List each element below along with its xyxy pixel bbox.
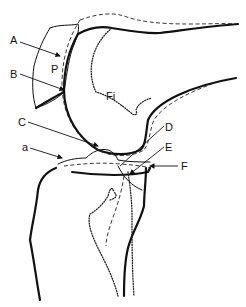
femur-anterior-shaft — [78, 24, 238, 34]
patella-posterior-edge — [36, 92, 64, 108]
leader-a — [30, 148, 62, 158]
leader-D — [120, 126, 164, 166]
fibula-dashed-inner — [106, 176, 124, 246]
fibula-dotted — [89, 189, 118, 296]
femur-condyle-outline — [64, 34, 236, 154]
knee-diagram: A B P Fi C a D E F — [0, 0, 246, 307]
meniscus-dashed — [64, 163, 150, 168]
label-D: D — [165, 121, 173, 133]
leader-B — [20, 74, 64, 90]
femur-dashed-outline — [80, 14, 236, 24]
label-a: a — [22, 141, 29, 153]
tibia-anterior — [30, 168, 56, 300]
label-C: C — [18, 116, 26, 128]
leader-A — [20, 42, 60, 56]
leader-C — [28, 122, 98, 146]
label-Fi: Fi — [106, 90, 115, 102]
femur-dashed-condyle — [62, 20, 212, 156]
femur-inner-dotted — [91, 28, 152, 115]
label-F: F — [181, 160, 188, 172]
tibial-plateau — [72, 168, 150, 175]
label-E: E — [165, 141, 172, 153]
label-A: A — [10, 34, 18, 46]
tibia-posterior — [124, 168, 146, 296]
label-P: P — [51, 63, 58, 75]
label-B: B — [10, 68, 17, 80]
